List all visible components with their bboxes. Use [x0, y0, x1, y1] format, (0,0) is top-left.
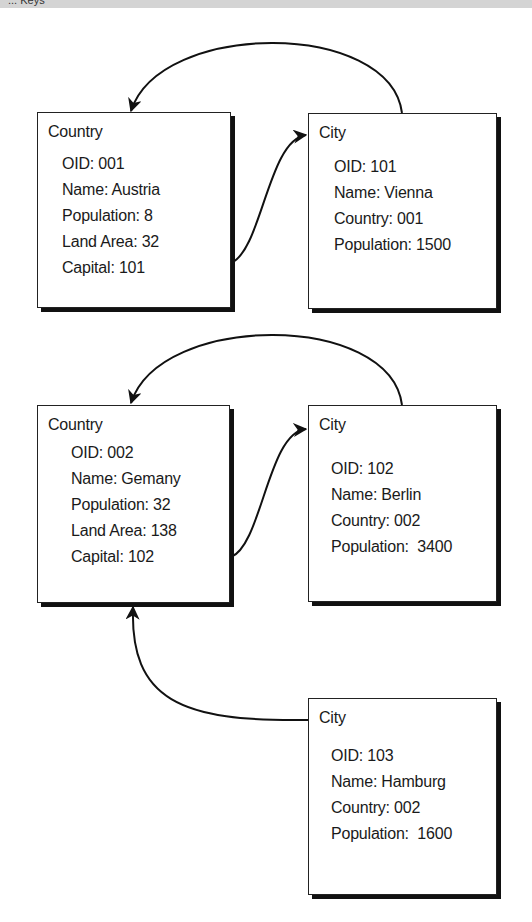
arrow-country001-to-city101: [231, 135, 306, 263]
field-land-area: Land Area: 32: [62, 229, 160, 255]
field-population: Population: 32: [71, 492, 181, 518]
field-name: Name: Austria: [62, 177, 160, 203]
city-box-101: City OID: 101 Name: Vienna Country: 001 …: [308, 113, 497, 309]
field-oid: OID: 001: [62, 151, 160, 177]
box-fields: OID: 002 Name: Gemany Population: 32 Lan…: [71, 440, 181, 570]
box-fields: OID: 103 Name: Hamburg Country: 002 Popu…: [331, 743, 452, 847]
field-country: Country: 001: [334, 206, 451, 232]
arrow-country002-to-city102: [231, 429, 306, 557]
field-country: Country: 002: [331, 508, 452, 534]
box-fields: OID: 101 Name: Vienna Country: 001 Popul…: [334, 154, 451, 258]
box-fields: OID: 102 Name: Berlin Country: 002 Popul…: [331, 456, 452, 560]
field-land-area: Land Area: 138: [71, 518, 181, 544]
field-oid: OID: 101: [334, 154, 451, 180]
city-box-102: City OID: 102 Name: Berlin Country: 002 …: [308, 405, 497, 602]
field-name: Name: Berlin: [331, 482, 452, 508]
field-capital: Capital: 102: [71, 544, 181, 570]
field-oid: OID: 002: [71, 440, 181, 466]
field-population: Population: 8: [62, 203, 160, 229]
field-population: Population: 1500: [334, 232, 451, 258]
country-box-001: Country OID: 001 Name: Austria Populatio…: [37, 112, 231, 308]
field-population: Population: 3400: [331, 534, 452, 560]
field-name: Name: Gemany: [71, 466, 181, 492]
field-capital: Capital: 101: [62, 255, 160, 281]
box-title: Country: [48, 416, 103, 434]
arrow-city103-to-country002: [133, 607, 308, 720]
field-country: Country: 002: [331, 795, 452, 821]
box-fields: OID: 001 Name: Austria Population: 8 Lan…: [62, 151, 160, 281]
field-oid: OID: 103: [331, 743, 452, 769]
field-name: Name: Vienna: [334, 180, 451, 206]
field-name: Name: Hamburg: [331, 769, 452, 795]
arrow-city102-to-country002: [131, 335, 402, 405]
box-title: Country: [48, 123, 103, 141]
arrow-city101-to-country001: [131, 43, 402, 113]
field-oid: OID: 102: [331, 456, 452, 482]
box-title: City: [319, 416, 346, 434]
city-box-103: City OID: 103 Name: Hamburg Country: 002…: [308, 698, 497, 895]
box-title: City: [319, 709, 346, 727]
country-box-002: Country OID: 002 Name: Gemany Population…: [37, 405, 230, 603]
box-title: City: [319, 124, 346, 142]
field-population: Population: 1600: [331, 821, 452, 847]
